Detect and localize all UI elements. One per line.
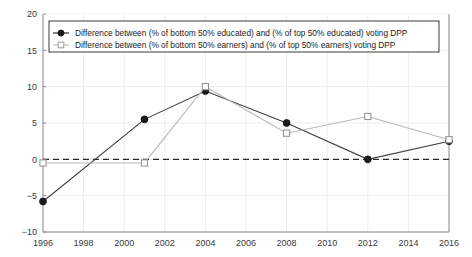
data-point-marker-square (284, 130, 290, 136)
legend-entry-label: Difference between (% of bottom 50% educ… (75, 28, 408, 38)
x-tick-label: 2010 (317, 238, 337, 248)
data-point-marker-circle (283, 120, 290, 127)
legend-marker-filled-circle (58, 30, 64, 36)
x-tick-label: 2002 (155, 238, 175, 248)
x-tick-label: 2016 (439, 238, 459, 248)
x-tick-label: 2008 (277, 238, 297, 248)
chart-legend: Difference between (% of bottom 50% educ… (49, 21, 439, 52)
line-chart: −10−505101520 19961998200020022004200620… (0, 0, 472, 257)
x-tick-label: 2014 (398, 238, 418, 248)
y-tick-label: 0 (32, 155, 37, 165)
y-tick-label: 15 (27, 46, 37, 56)
data-point-marker-square (202, 84, 208, 90)
x-tick-label: 2000 (114, 238, 134, 248)
x-tick-label: 1998 (74, 238, 94, 248)
y-tick-label: −10 (22, 227, 37, 237)
y-tick-label: 5 (32, 118, 37, 128)
y-tick-label: −5 (27, 191, 37, 201)
data-point-marker-square (141, 160, 147, 166)
y-tick-label: 10 (27, 82, 37, 92)
x-tick-label: 2012 (358, 238, 378, 248)
data-point-marker-square (446, 137, 452, 143)
chart-container: −10−505101520 19961998200020022004200620… (0, 0, 472, 257)
data-point-marker-circle (364, 156, 371, 163)
x-tick-label: 2006 (236, 238, 256, 248)
data-point-marker-square (40, 160, 46, 166)
data-point-marker-circle (40, 198, 47, 205)
data-point-marker-circle (141, 116, 148, 123)
legend-marker-open-square (58, 42, 64, 48)
data-point-marker-square (365, 113, 371, 119)
x-tick-label: 2004 (195, 238, 215, 248)
x-tick-label: 1996 (33, 238, 53, 248)
legend-entry-label: Difference between (% of bottom 50% earn… (75, 40, 396, 50)
y-tick-label: 20 (27, 9, 37, 19)
